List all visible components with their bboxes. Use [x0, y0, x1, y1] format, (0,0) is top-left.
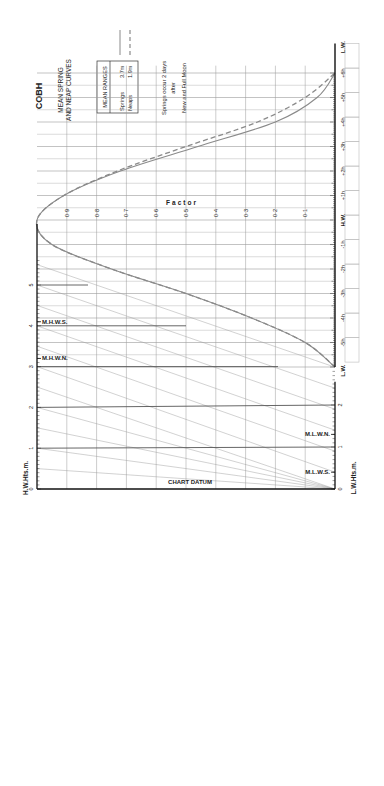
svg-text:0·3: 0·3 [243, 209, 249, 217]
chart-title: COBH [34, 83, 44, 110]
svg-text:0·1: 0·1 [302, 209, 308, 217]
hw-height-tick: 2 [28, 406, 34, 409]
lw-axis-label: L.W.Hts.m. [350, 461, 357, 494]
time-entry-box[interactable] [345, 191, 359, 216]
time-entry-box[interactable] [345, 142, 359, 167]
time-entry-box[interactable] [345, 117, 359, 142]
hw-axis-label: H.W.Hts.m. [22, 461, 29, 495]
tidal-curve-chart: COBH MEAN SPRING AND NEAP CURVES MEAN RA… [0, 0, 384, 786]
lw-marker-label: M.L.W.S. [305, 469, 330, 475]
time-label: L.W. [340, 364, 346, 377]
hw-marker-label: M.H.W.S. [42, 319, 68, 325]
time-entry-box[interactable] [345, 264, 359, 289]
svg-text:0·6: 0·6 [153, 209, 159, 217]
springs-value: 3.7m [119, 65, 125, 78]
time-entry-box[interactable] [345, 215, 359, 240]
spring-timing-note: Springs occur 2 days after New and Full … [161, 61, 187, 115]
svg-text:0·5: 0·5 [183, 209, 189, 217]
chart-grid: 0·10·20·30·40·50·60·70·80·9 [37, 66, 335, 489]
hw-marker-label: M.H.W.N. [42, 355, 68, 361]
neaps-value: 1.9m [127, 65, 133, 78]
subtitle-line-2: AND NEAP CURVES [65, 58, 72, 121]
factor-label: Factor [166, 199, 198, 206]
svg-text:0·2: 0·2 [272, 209, 278, 217]
time-entry-box[interactable] [345, 166, 359, 191]
hw-height-tick: 4 [28, 324, 34, 327]
hw-height-tick: 3 [28, 365, 34, 368]
svg-text:after: after [170, 82, 176, 94]
svg-text:0·7: 0·7 [123, 209, 129, 217]
time-entry-box[interactable] [345, 44, 359, 69]
neaps-label: Neaps [127, 95, 133, 111]
svg-text:0·8: 0·8 [94, 209, 100, 217]
title-block: COBH MEAN SPRING AND NEAP CURVES [34, 58, 72, 121]
time-entry-box[interactable] [345, 68, 359, 93]
lw-height-tick: 0 [337, 487, 343, 490]
time-entry-box[interactable] [345, 313, 359, 338]
chart-datum-label: CHART DATUM [168, 479, 212, 485]
hw-height-tick: 5 [28, 283, 34, 286]
time-entry-box[interactable] [345, 289, 359, 314]
lw-height-tick: 2 [337, 403, 343, 406]
lw-height-tick: 1 [337, 445, 343, 448]
mean-ranges-box: MEAN RANGES Springs 3.7m Neaps 1.9m [97, 30, 138, 113]
springs-label: Springs [119, 92, 125, 111]
axes: L.W.-5h-4h-3h-2h-1hH.W.+1h+2h+3h+4h+5h+6… [28, 41, 359, 491]
time-entry-box[interactable] [345, 338, 359, 363]
subtitle-line-1: MEAN SPRING [57, 67, 64, 113]
svg-text:0·4: 0·4 [213, 209, 219, 217]
svg-text:Springs occur 2 days: Springs occur 2 days [161, 61, 167, 115]
svg-text:0·9: 0·9 [64, 209, 70, 217]
time-entry-box[interactable] [345, 93, 359, 118]
time-entry-box[interactable] [345, 240, 359, 265]
mean-ranges-header: MEAN RANGES [102, 66, 108, 108]
lw-marker-label: M.L.W.N. [305, 431, 330, 437]
hw-height-tick: 1 [28, 447, 34, 450]
